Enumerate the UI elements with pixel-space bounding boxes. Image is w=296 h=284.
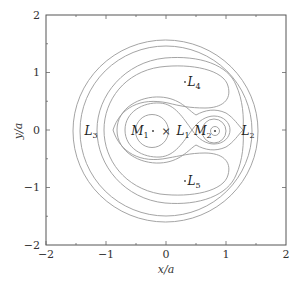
l1-label: L1 [175, 124, 189, 140]
l5-label: L5 [186, 174, 200, 190]
y-axis-label: y/a [12, 123, 25, 140]
x-axis-label: x/a [158, 263, 174, 276]
x-tick-label: 1 [223, 248, 230, 261]
y-tick-label: 2 [33, 9, 40, 22]
l5-dot [184, 180, 186, 182]
x-tick-label: 2 [283, 248, 290, 261]
m1-dot [152, 130, 154, 132]
l2-label: L2 [240, 124, 254, 140]
x-ticks [46, 15, 256, 245]
l4-label: L4 [186, 75, 200, 91]
potential-contour-plot: −2 −1 0 1 2 −2 −1 0 1 2 x/a y/a × M1 [0, 0, 296, 284]
center-of-mass-cross-icon: × [161, 125, 170, 138]
y-tick-label: −1 [24, 181, 40, 194]
y-tick-label: 1 [33, 66, 40, 79]
x-tick-label: 0 [163, 248, 170, 261]
m2-label: M2 [193, 124, 211, 140]
m1-label: M1 [130, 124, 148, 140]
y-tick-label: −2 [24, 239, 40, 252]
l4-dot [184, 81, 186, 83]
y-tick-label: 0 [33, 124, 40, 137]
x-tick-label: −1 [98, 248, 114, 261]
x-tick-label: −2 [38, 248, 54, 261]
l3-label: L3 [83, 124, 97, 140]
m2-dot [214, 130, 216, 132]
